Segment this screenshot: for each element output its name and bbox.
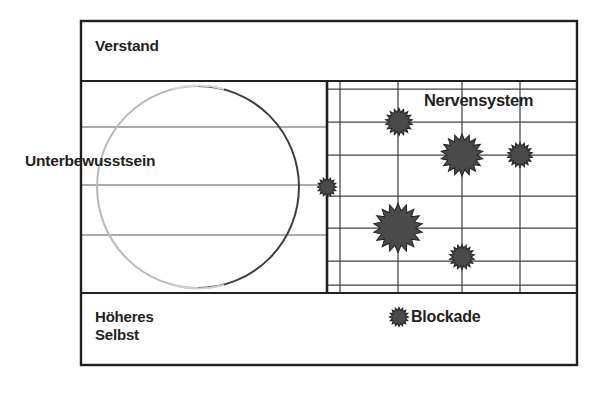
diagram-canvas: Verstand Unterbewusstsein Nervensystem H… xyxy=(0,0,607,394)
diagram-graphics xyxy=(0,0,607,394)
label-verstand: Verstand xyxy=(95,37,159,55)
star-boundary-4-icon xyxy=(318,178,337,197)
legend-label-blockade: Blockade xyxy=(411,308,481,327)
label-unterbewusstsein: Unterbewusstsein xyxy=(25,152,155,170)
star-legend-icon xyxy=(390,308,409,327)
page-background xyxy=(0,0,607,394)
label-nervensystem: Nervensystem xyxy=(424,91,533,110)
label-hoeheres-selbst: Höheres Selbst xyxy=(95,308,154,343)
